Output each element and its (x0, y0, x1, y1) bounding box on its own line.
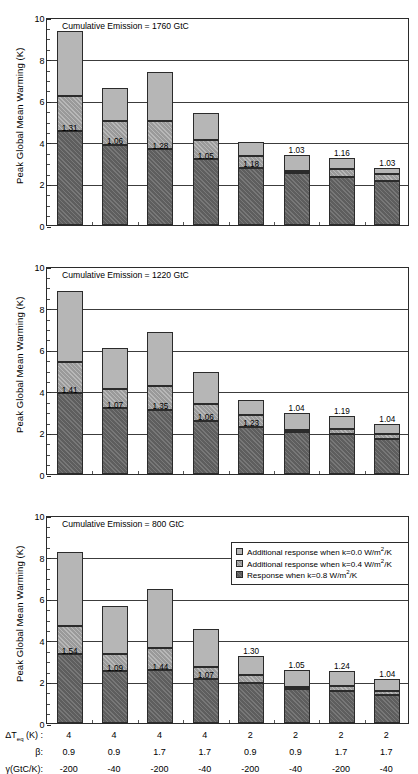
y-tick-label-0-8: 8 (39, 56, 44, 66)
chart-legend: Additional response when k=0.0 W/m2/KAdd… (231, 542, 409, 585)
x-axis-value-row-dteq-4: 2 (248, 730, 253, 740)
legend-row-2: Response when k=0.8 W/m2/K (236, 569, 403, 581)
bar-value-label-0-3: 1.05 (198, 152, 214, 161)
bar-value-label-1-3: 1.06 (198, 413, 214, 422)
y-tick-minor-0 (47, 133, 50, 134)
bar-segment-light-2-0 (57, 552, 83, 626)
y-tick-minor-1 (47, 320, 50, 321)
x-axis-value-row-gamma-7: -40 (380, 764, 393, 774)
x-tick-minor-1-7 (365, 471, 366, 474)
gridline-2-6 (47, 600, 408, 601)
y-tick-minor-2 (47, 548, 50, 549)
bar-segment-dark-2-5 (284, 689, 310, 723)
x-tick-minor-0-3 (183, 222, 184, 225)
bar-2-5 (284, 670, 310, 723)
bar-value-label-1-1: 1.07 (107, 401, 123, 410)
bar-value-label-0-4: 1.18 (243, 160, 259, 169)
bar-segment-light-0-7 (374, 168, 400, 174)
legend-swatch-1 (236, 560, 243, 567)
x-axis-label-row-gamma: γ(GtC/K): (6, 764, 44, 774)
bar-value-label-1-6: 1.19 (334, 407, 350, 416)
x-axis-value-row-dteq-2: 4 (157, 730, 162, 740)
bar-1-1 (102, 348, 128, 474)
bar-segment-light-2-7 (374, 679, 400, 690)
bar-value-label-2-1: 1.09 (107, 664, 123, 673)
x-axis-row-dteq: ΔTeq (K) :44442222 (0, 728, 418, 744)
y-tick-minor-0 (47, 123, 50, 124)
y-tick-major-1-4 (47, 392, 51, 393)
x-tick-minor-2-3 (183, 720, 184, 723)
y-tick-minor-0 (47, 50, 50, 51)
bar-value-label-2-3: 1.07 (198, 671, 214, 680)
gridline-0-8 (47, 60, 408, 61)
bar-segment-dark-0-2 (147, 149, 173, 225)
y-tick-major-1-0 (47, 476, 51, 477)
bar-segment-mid-0-6 (329, 169, 355, 177)
y-tick-major-0-6 (47, 102, 51, 103)
bar-1-7 (374, 424, 400, 474)
y-tick-minor-0 (47, 175, 50, 176)
x-axis-value-row-dteq-6: 2 (338, 730, 343, 740)
y-tick-minor-1 (47, 403, 50, 404)
x-axis-value-row-beta-3: 1.7 (199, 747, 212, 757)
y-tick-minor-2 (47, 662, 50, 663)
bar-segment-dark-1-2 (147, 410, 173, 474)
x-tick-minor-0-6 (319, 222, 320, 225)
bar-value-label-2-0: 1.54 (62, 647, 78, 656)
y-tick-minor-1 (47, 424, 50, 425)
legend-row-0: Additional response when k=0.0 W/m2/K (236, 546, 403, 558)
y-tick-major-2-8 (47, 558, 51, 559)
x-tick-minor-2-1 (92, 720, 93, 723)
y-axis-label-0: Peak Global Mean Warming (K) (14, 47, 25, 184)
bar-segment-light-0-6 (329, 158, 355, 168)
bar-segment-mid-2-4 (238, 675, 264, 684)
bar-segment-dark-1-5 (284, 432, 310, 474)
y-tick-label-2-2: 2 (39, 678, 44, 688)
y-tick-minor-2 (47, 537, 50, 538)
y-tick-minor-2 (47, 589, 50, 590)
bar-segment-light-0-0 (57, 31, 83, 97)
y-tick-label-1-2: 2 (39, 429, 44, 439)
x-axis-label-row-beta: β: (35, 747, 43, 757)
x-axis-value-row-dteq-7: 2 (384, 730, 389, 740)
bar-value-label-0-0: 1.31 (62, 124, 78, 133)
bar-segment-mid-0-7 (374, 174, 400, 181)
y-tick-minor-1 (47, 278, 50, 279)
y-tick-label-1-6: 6 (39, 346, 44, 356)
y-tick-major-1-8 (47, 309, 51, 310)
y-tick-major-1-10 (47, 268, 51, 269)
legend-label-1: Additional response when k=0.4 W/m2/K (247, 558, 392, 569)
panel-title-2: Cumulative Emission = 800 GtC (62, 519, 184, 529)
y-tick-major-2-4 (47, 641, 51, 642)
bar-value-label-0-6: 1.16 (334, 149, 350, 158)
bar-segment-light-1-7 (374, 424, 400, 434)
bar-1-6 (329, 416, 355, 474)
y-tick-minor-0 (47, 164, 50, 165)
y-tick-minor-1 (47, 444, 50, 445)
y-tick-label-0-10: 10 (34, 14, 44, 24)
y-tick-minor-1 (47, 382, 50, 383)
bar-segment-light-0-2 (147, 72, 173, 121)
bar-1-4 (238, 400, 264, 474)
bar-segment-light-1-5 (284, 413, 310, 430)
bar-segment-dark-0-0 (57, 131, 83, 225)
bar-value-label-0-7: 1.03 (379, 159, 395, 168)
y-tick-major-0-10 (47, 19, 51, 20)
bar-segment-light-2-1 (102, 606, 128, 654)
bar-segment-mid-2-5 (284, 687, 310, 689)
bar-1-3 (193, 372, 219, 474)
bar-segment-dark-2-7 (374, 695, 400, 723)
y-tick-minor-2 (47, 527, 50, 528)
y-tick-minor-0 (47, 195, 50, 196)
x-tick-minor-0-1 (92, 222, 93, 225)
bar-segment-dark-2-1 (102, 671, 128, 723)
x-tick-minor-1-3 (183, 471, 184, 474)
bar-segment-dark-1-4 (238, 427, 264, 474)
plot-area-0: 02468101.311.061.281.051.181.031.161.03 (46, 18, 409, 226)
bar-value-label-2-2: 1.44 (152, 663, 168, 672)
x-axis-value-row-gamma-1: -40 (108, 764, 121, 774)
y-tick-label-0-2: 2 (39, 180, 44, 190)
bar-segment-light-1-1 (102, 348, 128, 389)
x-axis-value-row-gamma-2: -200 (150, 764, 168, 774)
bar-segment-light-0-4 (238, 142, 264, 157)
